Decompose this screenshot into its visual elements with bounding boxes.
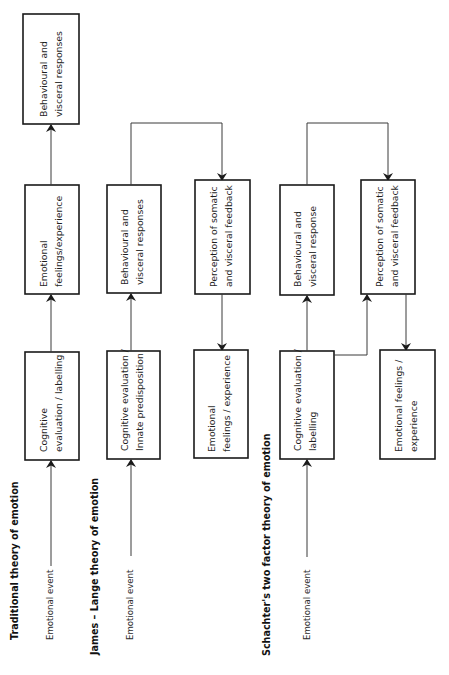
traditional-cognitive-line2: evaluation / labelling bbox=[53, 355, 64, 452]
james-lange-behaviour-line2: visceral responses bbox=[134, 199, 145, 285]
james-lange-perception-line2: and visceral feedback bbox=[223, 184, 234, 287]
emotion-theories-diagram: Traditional theory of emotion Emotional … bbox=[0, 0, 449, 675]
traditional-feelings-line1: Emotional bbox=[38, 240, 49, 287]
james-lange-perception-line1: Perception of somatic bbox=[208, 186, 219, 287]
schachter-perception-line1: Perception of somatic bbox=[374, 186, 385, 287]
traditional-behaviour-line2: visceral responses bbox=[53, 31, 64, 117]
james-lange-cognitive-line1: Cognitive evaluation / bbox=[119, 348, 130, 451]
schachter-cognitive-line1: Cognitive evaluation / bbox=[292, 348, 303, 451]
traditional-cognitive-line1: Cognitive bbox=[38, 408, 49, 452]
schachter-feelings-line2: experience bbox=[408, 400, 419, 452]
schachter-behaviour-line2: visceral response bbox=[307, 206, 318, 287]
traditional-theory-group: Traditional theory of emotion Emotional … bbox=[9, 14, 79, 640]
james-lange-feelings-line1: Emotional bbox=[206, 405, 217, 452]
schachter-perception-box bbox=[361, 180, 415, 294]
schachter-behaviour-line1: Behavioural and bbox=[292, 211, 303, 287]
traditional-feelings-box bbox=[25, 185, 79, 294]
james-lange-feelings-line2: feelings / experience bbox=[221, 355, 232, 452]
james-lange-cognitive-line2: Innate predisposition bbox=[134, 353, 145, 451]
traditional-behaviour-box bbox=[23, 14, 79, 124]
traditional-behaviour-line1: Behavioural and bbox=[38, 41, 49, 117]
schachter-arrow-to-perception bbox=[334, 295, 367, 355]
james-lange-event-label: Emotional event bbox=[125, 569, 135, 640]
schachter-title: Schachter's two factor theory of emotion bbox=[261, 433, 272, 656]
traditional-title: Traditional theory of emotion bbox=[9, 481, 20, 640]
schachter-feedback-connector bbox=[307, 123, 388, 185]
james-lange-theory-group: James – Lange theory of emotion Emotiona… bbox=[89, 123, 250, 656]
schachter-perception-line2: and visceral feedback bbox=[389, 184, 400, 287]
traditional-event-label: Emotional event bbox=[45, 569, 55, 640]
schachter-cognitive-line2: labelling bbox=[307, 411, 318, 451]
james-lange-behaviour-line1: Behavioural and bbox=[119, 209, 130, 285]
schachter-event-label: Emotional event bbox=[302, 569, 312, 640]
schachter-theory-group: Schachter's two factor theory of emotion… bbox=[261, 123, 435, 656]
james-lange-title: James – Lange theory of emotion bbox=[89, 478, 100, 656]
james-lange-feedback-connector bbox=[131, 123, 222, 185]
traditional-cognitive-box bbox=[25, 352, 79, 460]
traditional-feelings-line2: feelings/experience bbox=[53, 196, 64, 287]
schachter-feelings-line1: Emotional feelings / bbox=[393, 359, 404, 452]
